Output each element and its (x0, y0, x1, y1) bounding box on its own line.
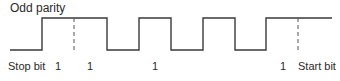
label-stop-bit: Stop bit (8, 60, 45, 72)
parity-waveform (0, 0, 340, 81)
signal-trace (10, 18, 332, 50)
label-bit-3: 1 (152, 60, 158, 72)
label-start-bit: Start bit (298, 60, 336, 72)
label-bit-1: 1 (55, 60, 61, 72)
label-bit-2: 1 (87, 60, 93, 72)
label-bit-4: 1 (280, 60, 286, 72)
